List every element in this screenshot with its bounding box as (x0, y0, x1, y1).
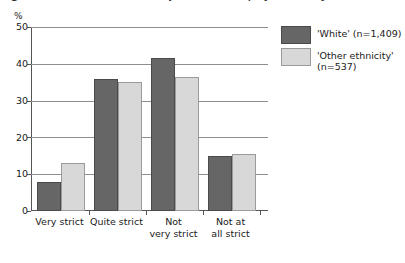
x-tick-mark-3 (203, 211, 204, 215)
bar-other-not-at-all-strict (232, 154, 256, 211)
gridline-50 (31, 27, 268, 28)
plot-area (31, 27, 268, 211)
gridline-40 (31, 64, 268, 65)
legend-item-other-ethnicity: 'Other ethnicity' (n=537) (281, 48, 405, 72)
x-category-label-quite-strict: Quite strict (88, 216, 145, 228)
bar-chart-figure: Figure: Views on how strict parents were… (0, 0, 405, 263)
figure-title-clipped: Figure: Views on how strict parents were… (0, 0, 405, 3)
y-tick-label-10: 10 (4, 169, 28, 179)
y-tick-label-30: 30 (4, 96, 28, 106)
y-tick-label-50: 50 (4, 22, 28, 32)
y-tick-label-20: 20 (4, 133, 28, 143)
legend-label-other-ethnicity: 'Other ethnicity' (n=537) (317, 48, 394, 72)
legend-label-white: 'White' (n=1,409) (317, 26, 401, 40)
bar-white-very-strict (37, 182, 61, 211)
y-axis-line (31, 27, 32, 211)
legend-item-white: 'White' (n=1,409) (281, 26, 405, 44)
bar-white-not-very-strict (151, 58, 175, 211)
x-category-label-not-at-all-strict: Not at all strict (202, 216, 259, 239)
x-category-label-not-very-strict: Not very strict (145, 216, 202, 239)
bar-white-quite-strict (94, 79, 118, 212)
x-tick-mark-1 (89, 211, 90, 215)
bar-white-not-at-all-strict (208, 156, 232, 211)
y-tick-label-40: 40 (4, 59, 28, 69)
x-tick-mark-2 (146, 211, 147, 215)
bar-other-quite-strict (118, 82, 142, 211)
x-category-label-very-strict: Very strict (31, 216, 88, 228)
legend-swatch-other-ethnicity-icon (281, 48, 311, 66)
legend-swatch-white-icon (281, 26, 311, 44)
x-tick-mark-4 (260, 211, 261, 215)
y-tick-label-0: 0 (4, 206, 28, 216)
gridline-20 (31, 137, 268, 138)
gridline-30 (31, 101, 268, 102)
bar-other-very-strict (61, 163, 85, 211)
chart-legend: 'White' (n=1,409) 'Other ethnicity' (n=5… (281, 26, 405, 76)
bar-other-not-very-strict (175, 77, 199, 211)
y-axis-unit-label: % (14, 11, 23, 21)
